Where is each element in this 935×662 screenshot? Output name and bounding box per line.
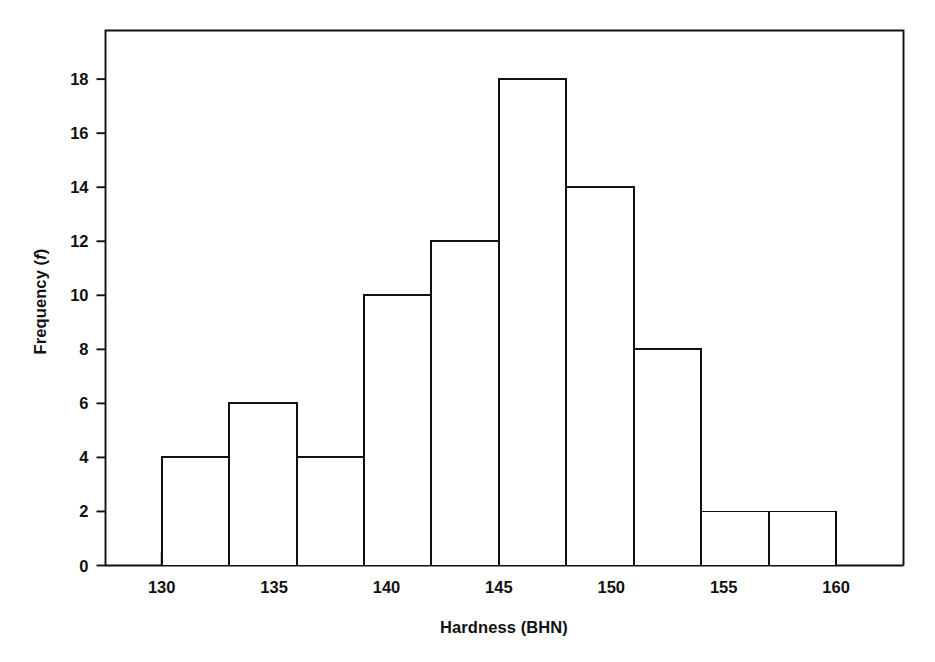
histogram-bar[interactable] [297, 457, 364, 565]
histogram-bar[interactable] [364, 295, 431, 565]
x-tick-label-140: 140 [356, 579, 416, 596]
y-tick-label-14: 14 [49, 179, 89, 196]
histogram-figure: Frequency (f) Hardness (BHN) 02468101214… [0, 0, 935, 662]
x-tick-label-135: 135 [244, 579, 304, 596]
histogram-bar[interactable] [634, 349, 701, 565]
y-tick-label-18: 18 [49, 71, 89, 88]
y-tick-label-4: 4 [49, 449, 89, 466]
histogram-bar[interactable] [162, 457, 229, 565]
y-tick-label-0: 0 [49, 558, 89, 575]
y-tick-group [97, 79, 106, 565]
histogram-bar[interactable] [701, 511, 768, 565]
histogram-bar[interactable] [431, 241, 498, 565]
plot-canvas [0, 0, 935, 662]
y-tick-label-8: 8 [49, 341, 89, 358]
histogram-bar[interactable] [566, 187, 633, 565]
x-tick-label-160: 160 [806, 579, 866, 596]
histogram-bar[interactable] [769, 511, 836, 565]
x-tick-label-155: 155 [694, 579, 754, 596]
histogram-bar[interactable] [499, 79, 566, 565]
x-tick-label-130: 130 [132, 579, 192, 596]
x-tick-label-150: 150 [581, 579, 641, 596]
y-tick-label-10: 10 [49, 287, 89, 304]
y-tick-label-2: 2 [49, 503, 89, 520]
y-tick-label-16: 16 [49, 125, 89, 142]
y-tick-label-12: 12 [49, 233, 89, 250]
histogram-bar[interactable] [229, 403, 296, 565]
y-tick-label-6: 6 [49, 395, 89, 412]
x-tick-label-145: 145 [469, 579, 529, 596]
histogram-bars [162, 79, 836, 565]
